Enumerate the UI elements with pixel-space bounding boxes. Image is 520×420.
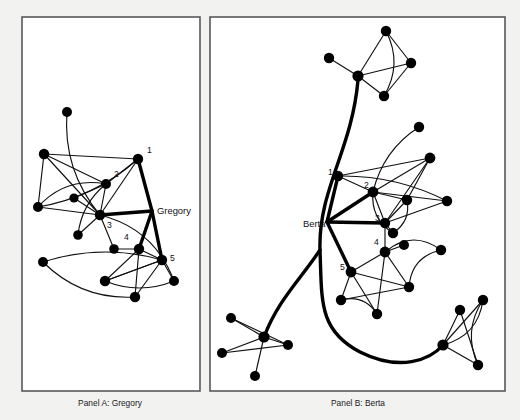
node-number-label: 5 bbox=[340, 262, 345, 272]
figure-canvas: 12345GregoryPanel A: Gregory12345BertaPa… bbox=[0, 0, 520, 420]
network-node[interactable] bbox=[101, 179, 111, 189]
panel-b: 12345Berta bbox=[210, 17, 505, 391]
network-node[interactable] bbox=[283, 340, 293, 350]
panel-a: 12345Gregory bbox=[22, 17, 200, 391]
node-number-label: 4 bbox=[374, 237, 379, 247]
network-node[interactable] bbox=[437, 339, 448, 350]
ego-network-figure: 12345GregoryPanel A: Gregory12345BertaPa… bbox=[0, 0, 520, 420]
network-node[interactable] bbox=[62, 107, 72, 117]
network-node[interactable] bbox=[346, 267, 357, 278]
panel-a-caption: Panel A: Gregory bbox=[78, 398, 143, 408]
network-node[interactable] bbox=[406, 58, 416, 68]
network-node[interactable] bbox=[109, 244, 119, 254]
network-node[interactable] bbox=[379, 91, 389, 101]
network-node[interactable] bbox=[372, 309, 382, 319]
node-number-label: 2 bbox=[114, 169, 119, 179]
network-node[interactable] bbox=[455, 305, 465, 315]
network-node[interactable] bbox=[399, 240, 409, 250]
node-number-label: 1 bbox=[328, 167, 333, 177]
network-node[interactable] bbox=[442, 196, 452, 206]
network-node[interactable] bbox=[414, 122, 424, 132]
network-node[interactable] bbox=[258, 331, 269, 342]
network-node[interactable] bbox=[333, 171, 343, 181]
network-node[interactable] bbox=[133, 154, 143, 164]
panel-a-frame bbox=[22, 17, 200, 391]
network-node[interactable] bbox=[130, 292, 140, 302]
node-number-label: 4 bbox=[124, 232, 129, 242]
network-node[interactable] bbox=[381, 26, 391, 36]
network-node[interactable] bbox=[33, 202, 43, 212]
network-node[interactable] bbox=[250, 371, 260, 381]
network-node[interactable] bbox=[425, 153, 436, 164]
network-node[interactable] bbox=[380, 218, 390, 228]
network-node[interactable] bbox=[134, 244, 144, 254]
network-node[interactable] bbox=[38, 257, 48, 267]
network-node[interactable] bbox=[352, 70, 363, 81]
network-node[interactable] bbox=[73, 230, 83, 240]
network-node[interactable] bbox=[404, 282, 414, 292]
node-number-label: 5 bbox=[170, 253, 175, 263]
network-node[interactable] bbox=[368, 187, 379, 198]
network-node[interactable] bbox=[169, 276, 179, 286]
network-node[interactable] bbox=[95, 210, 105, 220]
panel-b-caption: Panel B: Berta bbox=[331, 398, 385, 408]
node-number-label: 2 bbox=[364, 180, 369, 190]
network-node[interactable] bbox=[39, 149, 49, 159]
network-node[interactable] bbox=[226, 313, 236, 323]
network-node[interactable] bbox=[69, 193, 78, 202]
network-node[interactable] bbox=[436, 245, 446, 255]
network-node[interactable] bbox=[388, 228, 398, 238]
node-number-label: 1 bbox=[147, 145, 152, 155]
node-number-label: 3 bbox=[375, 213, 380, 223]
network-node[interactable] bbox=[473, 360, 483, 370]
network-node[interactable] bbox=[157, 255, 167, 265]
network-node[interactable] bbox=[380, 247, 391, 258]
ego-name-label: Gregory bbox=[157, 205, 191, 216]
network-node[interactable] bbox=[217, 348, 227, 358]
network-node[interactable] bbox=[478, 295, 488, 305]
network-node[interactable] bbox=[324, 53, 334, 63]
network-node[interactable] bbox=[402, 195, 412, 205]
node-number-label: 3 bbox=[107, 220, 112, 230]
network-node[interactable] bbox=[336, 295, 346, 305]
network-node[interactable] bbox=[100, 276, 110, 286]
ego-name-label: Berta bbox=[303, 218, 326, 229]
